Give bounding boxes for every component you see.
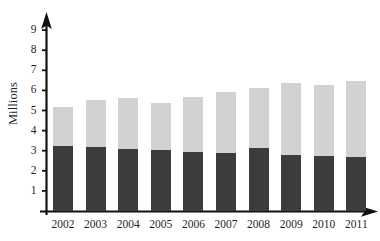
x-axis-tick-label: 2010	[306, 219, 342, 231]
bar-segment-lower[interactable]	[281, 155, 301, 211]
bar-segment-upper[interactable]	[183, 97, 203, 151]
bar-segment-upper[interactable]	[86, 100, 106, 146]
bar-segment-lower[interactable]	[151, 150, 171, 211]
x-axis-tick-label: 2003	[78, 219, 114, 231]
x-axis-tick-label: 2008	[241, 219, 277, 231]
x-axis-tick-label: 2004	[110, 219, 146, 231]
x-axis-tick-label: 2007	[208, 219, 244, 231]
bar-segment-upper[interactable]	[151, 103, 171, 149]
bar-group[interactable]	[86, 100, 106, 211]
bar-segment-lower[interactable]	[314, 156, 334, 211]
bar-segment-upper[interactable]	[346, 81, 366, 156]
bar-group[interactable]	[183, 97, 203, 211]
bar-group[interactable]	[118, 98, 138, 211]
bar-segment-lower[interactable]	[249, 148, 269, 211]
bar-group[interactable]	[151, 103, 171, 211]
bar-segment-upper[interactable]	[281, 83, 301, 154]
bar-group[interactable]	[216, 92, 236, 211]
bar-segment-upper[interactable]	[216, 92, 236, 152]
x-axis-tick-label: 2006	[175, 219, 211, 231]
x-axis-tick-label: 2002	[45, 219, 81, 231]
bar-chart: Millions 123456789 200220032004200520062…	[0, 0, 380, 241]
bar-segment-lower[interactable]	[346, 157, 366, 211]
bar-segment-lower[interactable]	[86, 147, 106, 211]
bar-group[interactable]	[281, 83, 301, 211]
bar-segment-lower[interactable]	[183, 152, 203, 211]
bars-container	[0, 0, 380, 241]
bar-group[interactable]	[314, 85, 334, 211]
bar-segment-lower[interactable]	[53, 146, 73, 211]
bar-group[interactable]	[346, 81, 366, 211]
x-axis-tick-label: 2009	[273, 219, 309, 231]
bar-segment-upper[interactable]	[53, 107, 73, 146]
bar-group[interactable]	[249, 88, 269, 211]
x-axis-tick-label: 2005	[143, 219, 179, 231]
x-axis-tick-label: 2011	[338, 219, 374, 231]
bar-segment-upper[interactable]	[118, 98, 138, 148]
bar-segment-lower[interactable]	[216, 153, 236, 211]
bar-segment-upper[interactable]	[249, 88, 269, 147]
bar-segment-upper[interactable]	[314, 85, 334, 155]
bar-segment-lower[interactable]	[118, 149, 138, 211]
bar-group[interactable]	[53, 106, 73, 211]
